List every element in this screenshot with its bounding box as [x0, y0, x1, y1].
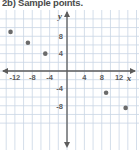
y-axis-label: y — [57, 11, 63, 21]
x-tick-label: -4 — [46, 73, 53, 82]
data-points-group — [8, 30, 128, 111]
x-tick-label: 4 — [82, 73, 87, 82]
data-point — [123, 106, 128, 111]
x-tick-label: -8 — [29, 73, 36, 82]
x-tick-label: -12 — [9, 73, 20, 82]
x-axis-arrow-left — [2, 68, 8, 74]
x-axis-label: x — [126, 73, 132, 83]
y-tick-label: 8 — [59, 32, 63, 41]
y-axis-arrow-down — [64, 142, 70, 148]
coordinate-plane-svg: -12-8-4481284-4-8 xy — [0, 10, 139, 150]
data-point — [26, 40, 31, 45]
y-tick-label: -4 — [56, 84, 63, 93]
y-tick-label: -8 — [56, 102, 63, 111]
data-point — [43, 51, 48, 56]
x-tick-label: 12 — [115, 73, 123, 82]
data-point — [8, 30, 13, 35]
data-point — [104, 90, 109, 95]
page-title: 2b) Sample points. — [2, 0, 139, 8]
scatter-plot-figure: 2b) Sample points. -12-8-4481284-4-8 xy — [0, 0, 139, 150]
y-axis-arrow-up — [64, 11, 70, 17]
plot-area: -12-8-4481284-4-8 xy — [0, 10, 139, 150]
x-tick-label: 8 — [100, 73, 104, 82]
